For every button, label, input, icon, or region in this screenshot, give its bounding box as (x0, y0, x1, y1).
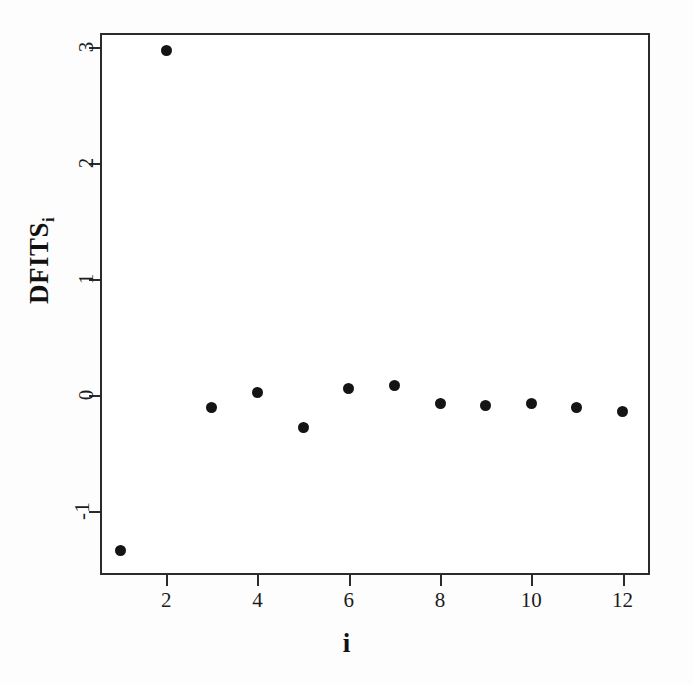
x-tick-4 (257, 575, 259, 586)
x-tick-label-12: 12 (612, 588, 633, 613)
x-tick-label-6: 6 (344, 588, 355, 613)
x-tick-label-2: 2 (161, 588, 172, 613)
y-tick-label-3: 3 (74, 42, 99, 53)
y-tick-label--1: -1 (71, 502, 96, 520)
x-tick-2 (166, 575, 168, 586)
x-tick-8 (440, 575, 442, 586)
axis-tick-layer: -10123 24681012 (100, 33, 650, 575)
x-tick-label-10: 10 (521, 588, 542, 613)
x-tick-6 (349, 575, 351, 586)
y-axis-title-subscript: i (39, 217, 58, 222)
x-axis-title: i (0, 628, 693, 659)
x-tick-label-4: 4 (252, 588, 263, 613)
y-tick-label-0: 0 (74, 390, 99, 401)
x-tick-10 (531, 575, 533, 586)
y-tick-label-1: 1 (74, 274, 99, 285)
x-tick-12 (623, 575, 625, 586)
y-axis-title-text: DFITS (24, 222, 54, 304)
figure-canvas: -10123 24681012 DFITSi i (0, 0, 693, 684)
y-tick-label-2: 2 (74, 158, 99, 169)
x-tick-label-8: 8 (435, 588, 446, 613)
y-axis-title: DFITSi (24, 217, 59, 304)
